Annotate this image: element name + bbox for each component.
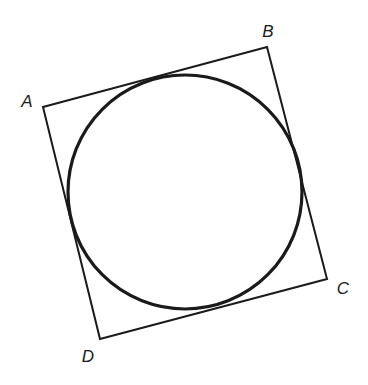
diagram-canvas: A B C D xyxy=(0,0,368,385)
vertex-label-a: A xyxy=(21,93,32,110)
inscribed-circle xyxy=(68,75,302,309)
vertex-label-b: B xyxy=(262,23,273,40)
vertex-label-c: C xyxy=(337,280,349,297)
square-abcd xyxy=(43,47,327,339)
vertex-label-d: D xyxy=(82,348,94,365)
diagram-svg xyxy=(0,0,368,385)
